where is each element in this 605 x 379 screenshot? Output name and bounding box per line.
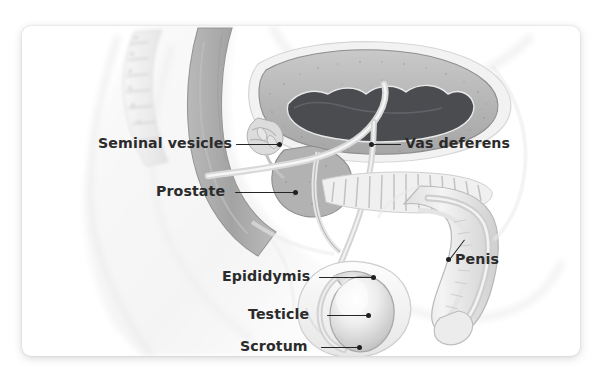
label-seminal-vesicles: Seminal vesicles [98,136,232,150]
leader-dot-epididymis [371,275,376,280]
leader-dot-scrotum [357,345,362,350]
label-vas-deferens: Vas deferens [405,136,510,150]
label-penis: Penis [455,252,499,266]
illustration-card: Seminal vesicles Prostate Epididymis Tes… [22,26,580,356]
label-prostate: Prostate [156,184,225,198]
leader-dot-seminal-vesicles [277,142,282,147]
leader-dot-testicle [366,313,371,318]
leader-dot-penis [446,257,451,262]
leader-dot-prostate [293,190,298,195]
label-scrotum: Scrotum [240,339,308,353]
label-testicle: Testicle [248,307,309,321]
label-epididymis: Epididymis [222,269,310,283]
screenshot-root: Seminal vesicles Prostate Epididymis Tes… [0,0,605,379]
